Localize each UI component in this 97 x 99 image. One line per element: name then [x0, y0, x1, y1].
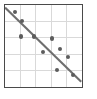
- data-point: [55, 68, 59, 72]
- data-point: [50, 36, 54, 40]
- data-point: [32, 34, 36, 38]
- data-point: [58, 47, 62, 51]
- data-point: [71, 73, 75, 77]
- plot-frame: [4, 4, 83, 88]
- data-point: [13, 10, 17, 14]
- data-point: [19, 34, 23, 38]
- data-points-layer: [5, 5, 82, 87]
- data-point: [20, 19, 24, 23]
- data-point: [41, 50, 45, 54]
- scatter-plot-screenshot: [0, 0, 97, 99]
- data-point: [66, 55, 70, 59]
